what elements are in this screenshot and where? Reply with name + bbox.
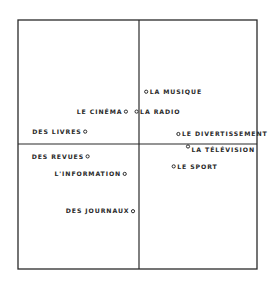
point-marker — [145, 90, 148, 93]
point-label: LA RADIO — [140, 108, 180, 115]
data-point: LA MUSIQUE — [145, 88, 202, 95]
data-point: LE SPORT — [172, 163, 218, 170]
point-marker — [172, 165, 175, 168]
point-label: DES LIVRES — [32, 128, 81, 135]
point-marker — [123, 172, 126, 175]
data-point: LE DIVERTISSEMENT — [177, 130, 268, 137]
point-label: DES JOURNAUX — [66, 207, 130, 215]
data-point: DES REVUES — [32, 153, 90, 160]
point-label: LE CINÉMA — [77, 108, 123, 115]
data-point: LE CINÉMA — [77, 108, 128, 115]
data-points: LA MUSIQUELE CINÉMALA RADIODES LIVRESLE … — [32, 88, 268, 215]
point-marker — [131, 210, 134, 213]
point-label: LA TÉLÉVISION — [192, 146, 256, 153]
point-label: DES REVUES — [32, 153, 84, 160]
data-point: LA RADIO — [135, 108, 180, 115]
data-point: LA TÉLÉVISION — [186, 145, 255, 153]
point-label: LE SPORT — [177, 163, 217, 170]
data-point: L'INFORMATION — [54, 170, 126, 177]
point-label: LE DIVERTISSEMENT — [182, 130, 268, 137]
data-point: DES LIVRES — [32, 128, 87, 135]
point-label: LA MUSIQUE — [150, 88, 202, 95]
point-label: L'INFORMATION — [54, 170, 121, 177]
point-marker — [135, 110, 138, 113]
point-marker — [186, 145, 189, 148]
data-point: DES JOURNAUX — [66, 207, 135, 215]
point-marker — [86, 155, 89, 158]
point-marker — [177, 132, 180, 135]
point-marker — [84, 130, 87, 133]
correspondence-plot: LA MUSIQUELE CINÉMALA RADIODES LIVRESLE … — [0, 0, 273, 286]
point-marker — [124, 110, 127, 113]
